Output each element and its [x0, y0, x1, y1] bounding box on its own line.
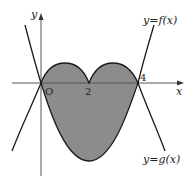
shaded-region	[41, 63, 138, 161]
f-curve-label: y=f(x)	[142, 14, 177, 27]
tick-label-4: 4	[140, 72, 146, 83]
curve-f	[25, 25, 154, 83]
origin-label: O	[45, 86, 53, 97]
x-axis-label: x	[176, 85, 183, 98]
tick-label-2: 2	[85, 86, 91, 97]
graph-diagram: y x O 2 4 y=f(x) y=g(x)	[0, 0, 196, 186]
y-axis-arrow-icon	[39, 13, 44, 20]
g-curve-label: y=g(x)	[142, 153, 180, 166]
y-axis-label: y	[30, 8, 38, 21]
